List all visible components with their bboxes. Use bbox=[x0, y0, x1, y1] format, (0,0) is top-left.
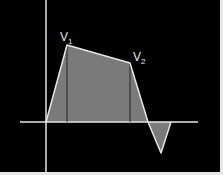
v1-label-main: V bbox=[60, 30, 68, 44]
v2-label: V2 bbox=[133, 50, 146, 66]
waveform-diagram: V1 V2 bbox=[0, 0, 223, 175]
v2-label-main: V bbox=[133, 50, 141, 64]
v1-label-sub: 1 bbox=[68, 37, 73, 46]
v1-label: V1 bbox=[60, 30, 73, 46]
v2-label-sub: 2 bbox=[141, 57, 146, 66]
